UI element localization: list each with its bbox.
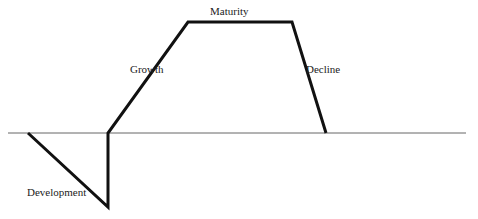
stage-label-growth: Growth xyxy=(130,63,164,75)
stage-label-maturity: Maturity xyxy=(210,5,249,17)
life-cycle-curve xyxy=(28,22,326,207)
stage-label-decline: Decline xyxy=(306,63,340,75)
stage-label-development: Development xyxy=(27,186,86,198)
